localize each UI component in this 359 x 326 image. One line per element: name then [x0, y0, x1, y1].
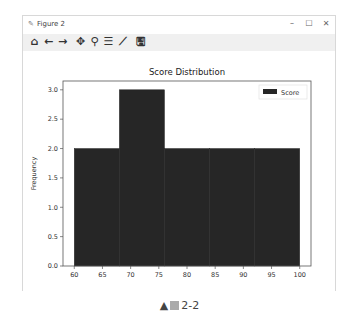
zoom-icon[interactable]: ⚲	[88, 35, 101, 49]
legend-swatch	[263, 89, 277, 94]
caption-label: 2-2	[181, 299, 199, 312]
title-bar: ✎ Figure 2 – ☐ ✕	[23, 16, 335, 34]
histogram-chart: Score Distribution60657075808590951000.0…	[23, 51, 337, 291]
y-tick-label: 2.0	[48, 145, 58, 153]
triangle-icon: ▲	[160, 299, 168, 312]
configure-subplots-icon[interactable]: ☰	[102, 35, 115, 49]
y-tick-label: 1.0	[48, 204, 58, 212]
y-tick-label: 3.0	[48, 86, 58, 94]
figure-window: ✎ Figure 2 – ☐ ✕ ⌂ ← → ✥ ⚲ ☰ ⟋ 🖫 Score D…	[22, 15, 336, 291]
x-tick-label: 100	[294, 271, 306, 279]
histogram-bar	[74, 149, 119, 266]
y-tick-label: 1.5	[48, 174, 58, 182]
x-tick-label: 85	[211, 271, 219, 279]
minimize-button[interactable]: –	[285, 18, 299, 30]
figure-icon: ✎	[28, 19, 36, 29]
back-icon[interactable]: ←	[42, 35, 55, 49]
legend-label: Score	[281, 89, 299, 97]
histogram-bar	[210, 149, 255, 266]
save-icon[interactable]: 🖫	[134, 35, 147, 49]
close-button[interactable]: ✕	[319, 18, 333, 30]
window-title: Figure 2	[37, 19, 65, 29]
figure-caption: ▲2-2	[0, 299, 359, 312]
navigation-toolbar: ⌂ ← → ✥ ⚲ ☰ ⟋ 🖫	[23, 34, 335, 51]
x-tick-label: 90	[239, 271, 247, 279]
figure-canvas[interactable]: Score Distribution60657075808590951000.0…	[23, 51, 335, 291]
y-tick-label: 0.0	[48, 262, 58, 270]
histogram-bar	[255, 149, 300, 266]
home-icon[interactable]: ⌂	[28, 35, 41, 49]
y-tick-label: 0.5	[48, 233, 58, 241]
x-tick-label: 95	[267, 271, 275, 279]
x-tick-label: 75	[155, 271, 163, 279]
pan-icon[interactable]: ✥	[74, 35, 87, 49]
chart-title: Score Distribution	[149, 67, 225, 77]
histogram-bar	[164, 149, 209, 266]
y-axis-label: Frequency	[30, 157, 38, 191]
x-tick-label: 70	[126, 271, 134, 279]
y-tick-label: 2.5	[48, 115, 58, 123]
edit-axis-icon[interactable]: ⟋	[116, 35, 129, 49]
maximize-button[interactable]: ☐	[302, 18, 316, 30]
x-tick-label: 60	[70, 271, 78, 279]
forward-icon[interactable]: →	[56, 35, 69, 49]
histogram-bar	[119, 90, 164, 266]
x-tick-label: 65	[98, 271, 106, 279]
x-tick-label: 80	[183, 271, 191, 279]
figure-box-icon	[170, 301, 179, 310]
